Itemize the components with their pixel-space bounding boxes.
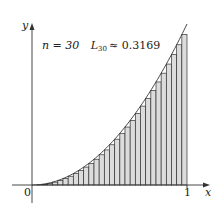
rectangle	[125, 127, 130, 185]
rectangle	[141, 106, 146, 185]
svg-text:n = 30 L30≈ 0.3169: n = 30 L30≈ 0.3169	[42, 39, 160, 53]
rectangle	[68, 176, 73, 185]
rectangle	[79, 171, 84, 185]
x-tick-label-1: 1	[184, 186, 191, 199]
rectangle	[99, 155, 104, 185]
rectangle	[135, 113, 140, 185]
rectangle	[120, 133, 125, 185]
rectangle	[156, 82, 161, 185]
rectangle	[63, 179, 68, 185]
left-endpoint-rectangles	[37, 35, 187, 185]
rectangle	[172, 55, 177, 185]
n-label: n = 30	[42, 39, 79, 52]
riemann-sum-chart: y x 0 1 n = 30 L30≈ 0.3169	[0, 0, 221, 207]
approx-label: L	[90, 39, 98, 52]
x-axis-label: x	[205, 186, 212, 199]
rectangle	[115, 139, 120, 185]
rectangle	[104, 150, 109, 185]
rectangle	[151, 90, 156, 185]
rectangle	[130, 120, 135, 185]
rectangle	[84, 167, 89, 185]
rectangle	[58, 181, 63, 185]
y-axis-label: y	[21, 19, 29, 32]
x-tick-label-0: 0	[24, 186, 31, 199]
rectangle	[161, 73, 166, 185]
annotation: n = 30 L30≈ 0.3169	[42, 39, 160, 53]
rectangle	[73, 174, 78, 185]
rectangle	[89, 163, 94, 185]
approx-value: ≈ 0.3169	[109, 39, 160, 52]
rectangle	[166, 64, 171, 185]
approx-subscript: 30	[98, 45, 107, 53]
rectangle	[110, 145, 115, 185]
y-axis-arrow-icon	[30, 23, 35, 30]
rectangle	[182, 35, 187, 185]
rectangle	[177, 45, 182, 185]
rectangle	[146, 98, 151, 185]
rectangle	[94, 159, 99, 185]
